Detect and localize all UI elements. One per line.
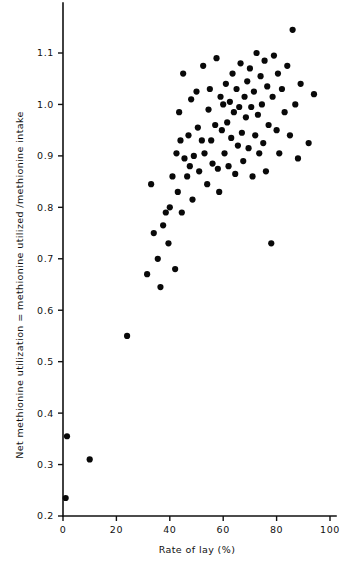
data-point — [239, 130, 245, 136]
data-point — [276, 150, 282, 156]
data-point — [287, 132, 293, 138]
data-point — [220, 101, 226, 107]
data-point — [249, 173, 255, 179]
data-point — [229, 70, 235, 76]
data-point — [295, 155, 301, 161]
data-point — [179, 209, 185, 215]
data-point — [231, 109, 237, 115]
data-point — [257, 73, 263, 79]
data-point — [188, 96, 194, 102]
y-tick-label: 0.6 — [37, 305, 54, 316]
data-point — [236, 104, 242, 110]
data-point — [232, 171, 238, 177]
x-axis-ticks: 020406080100 — [60, 516, 340, 535]
data-point — [235, 143, 241, 149]
data-point — [165, 240, 171, 246]
data-point — [247, 65, 253, 71]
data-point — [148, 181, 154, 187]
y-tick-label: 0.9 — [37, 150, 54, 161]
data-point — [264, 83, 270, 89]
data-point — [219, 127, 225, 133]
y-tick-label: 0.5 — [37, 356, 54, 367]
data-point — [213, 55, 219, 61]
x-axis-title: Rate of lay (%) — [159, 544, 236, 555]
data-point — [228, 135, 234, 141]
data-point — [251, 88, 257, 94]
data-point — [256, 150, 262, 156]
x-tick-label: 0 — [60, 524, 67, 535]
data-point — [196, 168, 202, 174]
data-point — [244, 78, 250, 84]
y-tick-label: 0.3 — [37, 459, 54, 470]
data-point — [157, 284, 163, 290]
axes: 0.20.30.40.50.60.70.80.91.01.1 020406080… — [37, 3, 340, 535]
data-point — [311, 91, 317, 97]
scatter-plot-figure: 0.20.30.40.50.60.70.80.91.01.1 020406080… — [0, 0, 355, 570]
data-point — [64, 433, 70, 439]
y-axis-ticks: 0.20.30.40.50.60.70.80.91.01.1 — [37, 47, 63, 521]
data-point-series — [63, 27, 318, 501]
data-point — [275, 70, 281, 76]
data-point — [243, 114, 249, 120]
data-point — [87, 456, 93, 462]
x-tick-label: 60 — [217, 524, 230, 535]
x-tick-label: 40 — [163, 524, 176, 535]
data-point — [268, 240, 274, 246]
data-point — [279, 86, 285, 92]
data-point — [265, 122, 271, 128]
data-point — [240, 158, 246, 164]
data-point — [252, 132, 258, 138]
data-point — [271, 52, 277, 58]
data-point — [263, 168, 269, 174]
data-point — [224, 119, 230, 125]
data-point — [225, 163, 231, 169]
data-point — [282, 109, 288, 115]
y-tick-label: 1.0 — [37, 99, 54, 110]
y-tick-label: 1.1 — [37, 47, 54, 58]
data-point — [199, 137, 205, 143]
data-point — [185, 132, 191, 138]
y-axis-title: Net methionine utilization = methionine … — [14, 111, 25, 459]
data-point — [181, 155, 187, 161]
data-point — [124, 333, 130, 339]
data-point — [180, 70, 186, 76]
data-point — [259, 101, 265, 107]
plot-canvas: 0.20.30.40.50.60.70.80.91.01.1 020406080… — [0, 0, 355, 570]
data-point — [204, 181, 210, 187]
data-point — [274, 127, 280, 133]
data-point — [205, 106, 211, 112]
data-point — [201, 150, 207, 156]
y-tick-label: 0.4 — [37, 408, 54, 419]
data-point — [167, 204, 173, 210]
data-point — [233, 86, 239, 92]
data-point — [216, 189, 222, 195]
y-tick-label: 0.2 — [37, 510, 54, 521]
data-point — [253, 50, 259, 56]
data-point — [248, 104, 254, 110]
data-point — [215, 166, 221, 172]
data-point — [63, 495, 69, 501]
data-point — [255, 112, 261, 118]
data-point — [261, 58, 267, 64]
data-point — [172, 266, 178, 272]
data-point — [155, 256, 161, 262]
data-point — [270, 94, 276, 100]
data-point — [195, 124, 201, 130]
data-point — [208, 137, 214, 143]
data-point — [187, 163, 193, 169]
data-point — [241, 94, 247, 100]
y-tick-label: 0.7 — [37, 253, 54, 264]
data-point — [298, 81, 304, 87]
data-point — [176, 109, 182, 115]
data-point — [175, 189, 181, 195]
x-tick-label: 20 — [110, 524, 123, 535]
y-tick-label: 0.8 — [37, 202, 54, 213]
data-point — [191, 153, 197, 159]
data-point — [184, 173, 190, 179]
data-point — [177, 137, 183, 143]
data-point — [163, 209, 169, 215]
data-point — [144, 271, 150, 277]
data-point — [160, 222, 166, 228]
data-point — [217, 94, 223, 100]
data-point — [189, 197, 195, 203]
